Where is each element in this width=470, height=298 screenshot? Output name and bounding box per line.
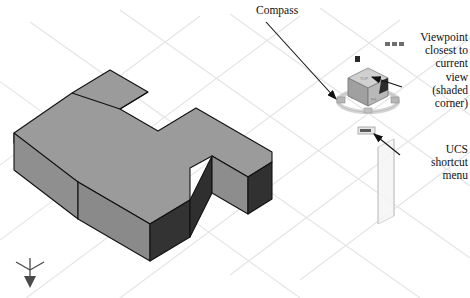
callout-label-viewpoint: Viewpoint closest to current view (shade… xyxy=(372,31,468,110)
figure-canvas: TOP L FR Compass Viewpoint closest to cu… xyxy=(0,0,470,298)
compass-nub-left xyxy=(337,97,345,103)
ucs-axis-icon xyxy=(16,258,44,288)
callout-label-ucs-shortcut-menu: UCS shortcut menu xyxy=(372,143,468,183)
crosshair-cursor xyxy=(355,56,360,62)
extruded-notched-block xyxy=(14,70,272,261)
svg-text:TOP: TOP xyxy=(360,76,368,81)
compass-nub-front xyxy=(364,108,372,113)
callout-label-compass: Compass xyxy=(256,4,298,17)
ucs-menu-chip[interactable] xyxy=(358,127,375,134)
arrow-compass xyxy=(266,22,336,99)
